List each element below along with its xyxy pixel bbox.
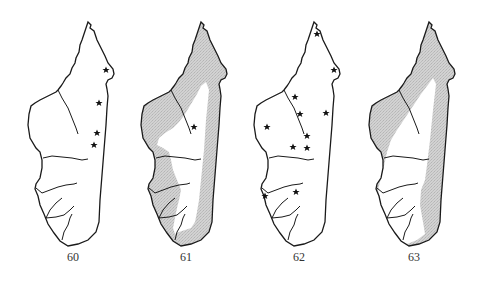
panel-label-61: 61 [166,250,206,265]
madagascar-maps [0,0,483,287]
map-panel-62 [254,22,340,246]
map-panel-63 [369,22,455,246]
panel-label-60: 60 [53,250,93,265]
island-outline [28,22,114,246]
panel-label-62: 62 [279,250,319,265]
map-panel-60 [28,22,114,246]
panel-label-63: 63 [394,250,434,265]
island-outline [254,22,340,246]
figure: 60 61 62 63 [0,0,483,287]
map-panel-61 [141,22,227,246]
